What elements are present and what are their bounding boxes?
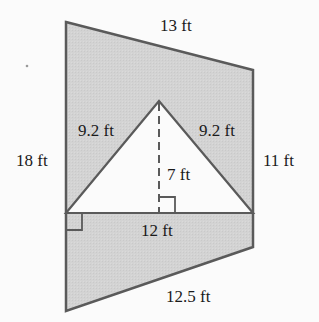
label-bottom-side: 12.5 ft xyxy=(166,287,211,306)
label-top-side: 13 ft xyxy=(160,16,192,35)
composite-figure: 13 ft 18 ft 11 ft 12.5 ft 9.2 ft 9.2 ft … xyxy=(0,0,319,322)
label-left-side: 18 ft xyxy=(16,151,48,170)
diagram-canvas: 13 ft 18 ft 11 ft 12.5 ft 9.2 ft 9.2 ft … xyxy=(0,0,319,322)
label-triangle-left: 9.2 ft xyxy=(78,121,114,140)
label-triangle-height: 7 ft xyxy=(167,165,190,184)
label-right-side: 11 ft xyxy=(263,151,294,170)
label-triangle-base: 12 ft xyxy=(141,221,173,240)
speck xyxy=(26,65,29,68)
label-triangle-right: 9.2 ft xyxy=(199,121,235,140)
